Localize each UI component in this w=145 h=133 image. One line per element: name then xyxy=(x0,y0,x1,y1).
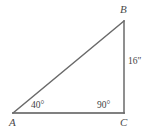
vertex-label-a: A xyxy=(9,117,16,128)
angle-measure-at-c: 90° xyxy=(97,100,110,110)
triangle-drawing xyxy=(0,0,145,133)
triangle-figure: A B C 40° 90° 16″ xyxy=(0,0,145,133)
angle-measure-at-a: 40° xyxy=(31,100,44,110)
side-length-label-bc: 16″ xyxy=(128,56,141,66)
vertex-label-b: B xyxy=(120,4,127,15)
vertex-label-c: C xyxy=(120,117,127,128)
